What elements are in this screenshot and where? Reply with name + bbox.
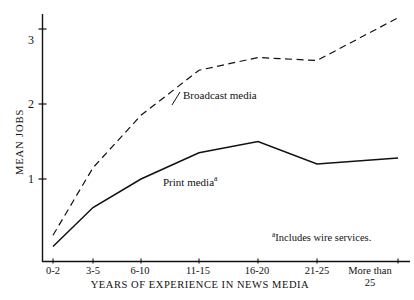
series-annotation-print-text: Print media <box>163 176 214 188</box>
y-tick-label-3: 3 <box>12 33 34 48</box>
x-tick-label-more-than-line2: 25 <box>365 277 376 288</box>
series-annotation-broadcast: Broadcast media <box>183 89 257 101</box>
x-axis-title: YEARS OF EXPERIENCE IN NEWS MEDIA <box>70 279 330 290</box>
footnote: aIncludes wire services. <box>272 232 371 243</box>
footnote-text: Includes wire services. <box>275 232 371 243</box>
x-tick-label-21-25: 21-25 <box>288 265 346 277</box>
line-chart-plot <box>0 0 414 300</box>
chart-container: MEAN JOBS 1 2 3 0-2 3-5 6-10 11-15 16-20… <box>0 0 414 300</box>
series-line-broadcast-media <box>53 18 398 236</box>
series-lines <box>53 18 398 247</box>
y-tick-label-1: 1 <box>12 172 34 187</box>
series-annotation-print-superscript: a <box>214 174 217 183</box>
y-tick-label-2: 2 <box>12 97 34 112</box>
series-line-print-media <box>53 142 398 247</box>
x-tick-label-16-20: 16-20 <box>228 265 286 277</box>
y-axis-title: MEAN JOBS <box>14 109 25 175</box>
series-annotation-print: Print mediaa <box>163 176 217 188</box>
x-tick-label-11-15: 11-15 <box>169 265 227 277</box>
x-tick-label-more-than-line1: More than <box>348 265 391 276</box>
x-tick-label-more-than-25: More than 25 <box>339 265 401 289</box>
broadcast-leader-line <box>172 92 180 105</box>
x-tick-label-6-10: 6-10 <box>111 265 169 277</box>
